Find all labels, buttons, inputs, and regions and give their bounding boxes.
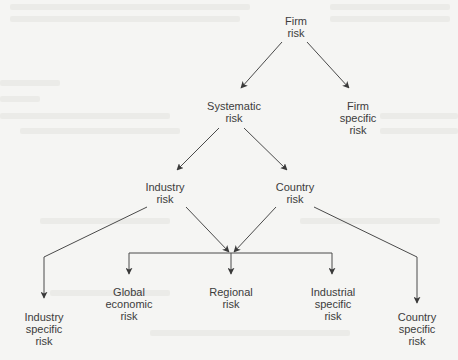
node-regional-risk: Regional risk (209, 286, 252, 310)
node-firm-specific-risk: Firm specific risk (340, 100, 377, 136)
node-label: specific (340, 112, 377, 124)
node-systematic-risk: Systematic risk (207, 100, 261, 124)
node-industry-risk: Industry risk (145, 181, 184, 205)
edge-industry-to-convergence (186, 207, 229, 252)
node-industrial-specific-risk: Industrial specific risk (311, 286, 356, 322)
node-country-specific-risk: Country specific risk (398, 311, 437, 347)
node-label: Global (105, 286, 152, 298)
node-label: risk (311, 310, 356, 322)
node-label: risk (207, 112, 261, 124)
node-label: Country (276, 181, 315, 193)
edge-firm-to-systematic (241, 42, 282, 88)
node-label: risk (276, 193, 315, 205)
node-label: Regional (209, 286, 252, 298)
edge-firm-to-firm-specific (307, 42, 349, 88)
node-industry-specific-risk: Industry specific risk (24, 311, 63, 347)
node-label: risk (105, 310, 152, 322)
edge-systematic-to-country (244, 128, 287, 170)
node-label: risk (209, 298, 252, 310)
node-label: risk (398, 335, 437, 347)
node-label: risk (340, 124, 377, 136)
edge-country-to-convergence (234, 207, 276, 252)
node-firm-risk: Firm risk (285, 15, 307, 39)
node-label: specific (24, 323, 63, 335)
node-label: Firm (285, 15, 307, 27)
node-label: risk (24, 335, 63, 347)
risk-decomposition-diagram: Firm risk Systematic risk Firm specific … (0, 0, 458, 360)
node-label: Systematic (207, 100, 261, 112)
node-label: Industry (145, 181, 184, 193)
node-label: Industrial (311, 286, 356, 298)
node-label: Country (398, 311, 437, 323)
node-label: specific (398, 323, 437, 335)
node-global-economic-risk: Global economic risk (105, 286, 152, 322)
node-country-risk: Country risk (276, 181, 315, 205)
node-label: Industry (24, 311, 63, 323)
node-label: specific (311, 298, 356, 310)
node-label: Firm (340, 100, 377, 112)
node-label: risk (285, 27, 307, 39)
node-label: risk (145, 193, 184, 205)
node-label: economic (105, 298, 152, 310)
edge-systematic-to-industry (177, 128, 219, 170)
